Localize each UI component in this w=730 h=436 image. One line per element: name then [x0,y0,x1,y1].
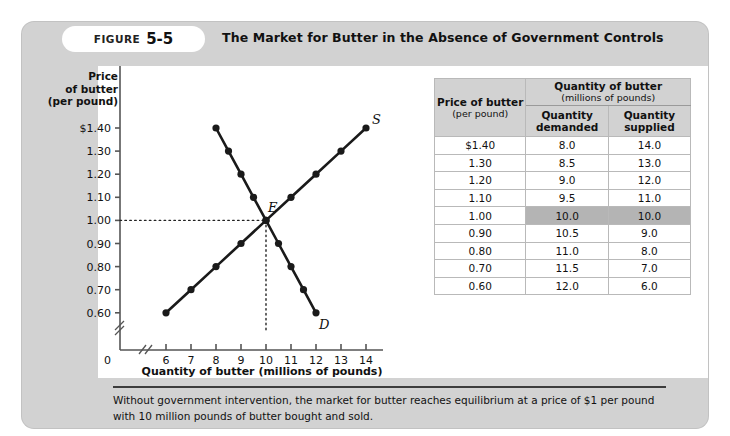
cell-price: $1.40 [435,137,526,155]
equilibrium-label: E [267,200,278,215]
cell-price: 1.10 [435,189,526,207]
x-axis-tick-label: 12 [309,354,323,367]
data-point [225,148,232,155]
y-axis-tick-label: $1.40 [80,122,112,135]
x-axis-tick-label: 9 [238,354,245,367]
header-price-line1: Price of butter [435,96,525,108]
cell-quantity-supplied: 6.0 [608,277,690,295]
x-axis-tick-label: 6 [163,354,170,367]
data-point [250,194,257,201]
table-row: 1.209.012.0 [435,172,691,190]
data-point [187,286,194,293]
cell-quantity-demanded: 12.0 [526,277,608,295]
figure-caption: Without government intervention, the mar… [113,393,673,424]
cell-price: 0.70 [435,260,526,278]
y-axis-tick-label: 0.60 [87,307,112,320]
cell-quantity-supplied: 9.0 [608,224,690,242]
cell-quantity-supplied: 10.0 [608,207,690,225]
x-axis-tick-label: 11 [284,354,298,367]
header-demanded-line1: Quantity [526,109,607,121]
cell-price: 0.90 [435,224,526,242]
cell-price: 1.00 [435,207,526,225]
cell-price: 1.20 [435,172,526,190]
table-row: 1.308.513.0 [435,154,691,172]
y-axis-tick-label: 0.80 [87,261,112,274]
header-supplied-line1: Quantity [609,109,690,121]
cell-quantity-demanded: 11.5 [526,260,608,278]
cell-price: 1.30 [435,154,526,172]
y-axis-tick-label: 0.90 [87,238,112,251]
header-supplied-line2: supplied [609,121,690,133]
data-point [212,263,219,270]
y-axis-tick-label: 1.00 [87,214,112,227]
table-row: 1.109.511.0 [435,189,691,207]
x-axis-tick-label: 8 [213,354,220,367]
data-point [262,217,269,224]
header-quantity-group: Quantity of butter (millions of pounds) [526,79,691,106]
data-point [162,309,169,316]
quantity-table-wrapper: Price of butter (per pound) Quantity of … [434,78,691,295]
cell-quantity-demanded: 9.5 [526,189,608,207]
cell-quantity-demanded: 8.5 [526,154,608,172]
header-price-of-butter: Price of butter (per pound) [435,79,526,137]
table-row: 0.8011.08.0 [435,242,691,260]
cell-quantity-demanded: 11.0 [526,242,608,260]
cell-quantity-supplied: 7.0 [608,260,690,278]
axis-origin-label: 0 [104,354,111,367]
supply-curve-label: S [372,112,381,127]
cell-quantity-supplied: 12.0 [608,172,690,190]
header-price-line2: (per pound) [435,108,525,120]
cell-quantity-demanded: 10.0 [526,207,608,225]
table-row: 0.9010.59.0 [435,224,691,242]
table-row: 1.0010.010.0 [435,207,691,225]
data-point [275,240,282,247]
data-point [337,148,344,155]
cell-quantity-supplied: 14.0 [608,137,690,155]
table-row: 0.7011.57.0 [435,260,691,278]
table-head: Price of butter (per pound) Quantity of … [435,79,691,137]
header-group-line1: Quantity of butter [526,80,690,92]
data-point [212,124,219,131]
table-body: $1.408.014.01.308.513.01.209.012.01.109.… [435,137,691,295]
header-quantity-supplied: Quantity supplied [608,106,690,137]
y-axis-tick-label: 0.70 [87,284,112,297]
cell-price: 0.80 [435,242,526,260]
x-axis-tick-label: 13 [334,354,348,367]
cell-price: 0.60 [435,277,526,295]
cell-quantity-supplied: 8.0 [608,242,690,260]
table-row: $1.408.014.0 [435,137,691,155]
cell-quantity-supplied: 11.0 [608,189,690,207]
caption-divider [113,386,666,388]
y-axis-tick-label: 1.10 [87,191,112,204]
data-point [312,171,319,178]
data-point [287,194,294,201]
table-header-row-top: Price of butter (per pound) Quantity of … [435,79,691,106]
figure-root: FIGURE 5-5 The Market for Butter in the … [0,0,730,436]
table-row: 0.6012.06.0 [435,277,691,295]
y-axis-tick-label: 1.20 [87,168,112,181]
cell-quantity-demanded: 9.0 [526,172,608,190]
cell-quantity-demanded: 8.0 [526,137,608,155]
x-axis-tick-label: 7 [188,354,195,367]
cell-quantity-supplied: 13.0 [608,154,690,172]
data-point [237,240,244,247]
data-point [300,286,307,293]
header-demanded-line2: demanded [526,121,607,133]
header-group-line2: (millions of pounds) [526,92,690,104]
data-point [362,124,369,131]
header-quantity-demanded: Quantity demanded [526,106,608,137]
quantity-table: Price of butter (per pound) Quantity of … [434,78,691,295]
data-point [287,263,294,270]
cell-quantity-demanded: 10.5 [526,224,608,242]
data-point [312,309,319,316]
x-axis-tick-label: 14 [359,354,373,367]
x-axis-tick-label: 10 [259,354,273,367]
data-point [237,171,244,178]
demand-curve-label: D [318,317,330,332]
y-axis-tick-label: 1.30 [87,145,112,158]
